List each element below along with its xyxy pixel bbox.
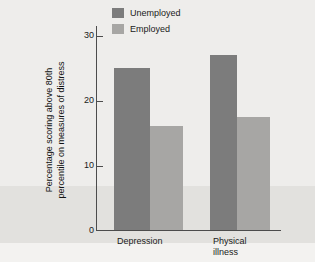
legend-item-employed: Employed — [112, 22, 181, 36]
bar-chart-figure: 30 20 10 0 Depression Physical illness P… — [0, 0, 315, 262]
bar-employed-depression — [150, 126, 183, 230]
y-axis-title-line2: percentile on measures of distress — [55, 40, 67, 220]
bar-unemployed-depression — [114, 68, 150, 230]
x-axis-category-physical-illness-line2: illness — [213, 247, 283, 258]
y-axis-label-20: 20 — [70, 96, 94, 105]
bar-unemployed-physical-illness — [210, 55, 237, 230]
chart-legend: Unemployed Employed — [112, 6, 181, 38]
legend-swatch-employed-icon — [112, 24, 124, 34]
y-axis-line — [96, 26, 97, 231]
bar-employed-physical-illness — [237, 117, 270, 230]
x-axis-line — [96, 230, 281, 231]
y-axis-title-line1: Percentage scoring above 80th — [43, 40, 55, 220]
y-axis-label-10: 10 — [70, 161, 94, 170]
y-axis-tick-20 — [97, 101, 103, 102]
y-axis-tick-30 — [97, 36, 103, 37]
plot-area: 30 20 10 0 Depression Physical illness P… — [0, 0, 315, 262]
x-axis-category-depression: Depression — [117, 236, 187, 247]
legend-label-employed: Employed — [130, 24, 170, 34]
legend-swatch-unemployed-icon — [112, 8, 124, 18]
x-axis-category-physical-illness-line1: Physical — [213, 236, 283, 247]
y-axis-tick-10 — [97, 166, 103, 167]
y-axis-label-30: 30 — [70, 31, 94, 40]
y-axis-label-0: 0 — [70, 226, 94, 235]
y-axis-title: Percentage scoring above 80th percentile… — [43, 0, 69, 40]
legend-item-unemployed: Unemployed — [112, 6, 181, 20]
legend-label-unemployed: Unemployed — [130, 8, 181, 18]
